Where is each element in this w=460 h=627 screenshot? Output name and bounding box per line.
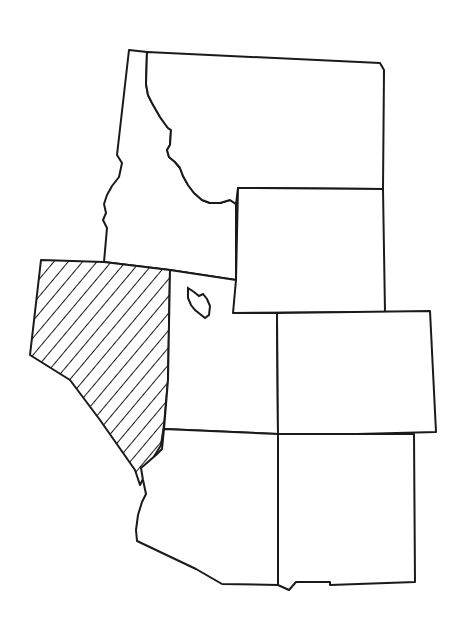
map	[0, 0, 460, 627]
state-wyoming	[233, 188, 385, 313]
states-layer	[30, 50, 436, 590]
state-colorado	[277, 311, 436, 436]
state-nevada	[30, 260, 170, 485]
state-arizona	[136, 429, 278, 585]
state-new-mexico	[278, 434, 415, 590]
